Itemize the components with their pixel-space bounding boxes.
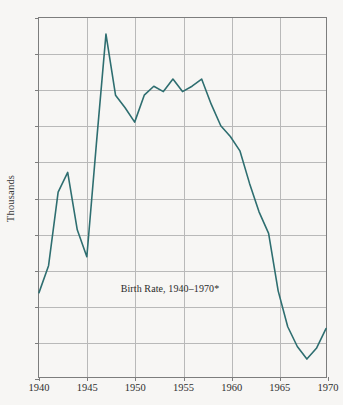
x-axis-tick-label: 1965 — [256, 382, 304, 393]
chart-annotation: Birth Rate, 1940–1970* — [121, 283, 220, 294]
x-axis-tick-mark — [87, 377, 88, 381]
x-axis-tick-mark — [184, 377, 185, 381]
y-axis-title-label: Thousands — [5, 139, 16, 259]
x-axis-tick-mark — [39, 377, 40, 381]
x-axis-tick-mark — [280, 377, 281, 381]
x-axis-tick-mark — [135, 377, 136, 381]
x-axis-tick-label: 1950 — [111, 382, 159, 393]
plot-area: 1718192021222324252627 19401945195019551… — [38, 17, 327, 378]
x-axis-tick-label: 1955 — [160, 382, 208, 393]
x-axis-tick-label: 1970 — [304, 382, 343, 393]
x-axis-tick-label: 1960 — [208, 382, 256, 393]
x-axis-tick-label: 1945 — [63, 382, 111, 393]
x-axis-tick-label: 1940 — [15, 382, 63, 393]
y-axis-title: Thousands — [0, 0, 20, 405]
x-axis-tick-mark — [232, 377, 233, 381]
data-series-birth-rate — [39, 18, 326, 377]
x-axis-tick-mark — [328, 377, 329, 381]
